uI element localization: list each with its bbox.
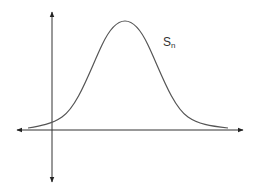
- bell-curve-diagram: [0, 0, 256, 193]
- curve-label: Sn: [163, 36, 175, 50]
- curve-label-subscript: n: [171, 41, 175, 50]
- curve-label-main: S: [163, 35, 171, 49]
- bell-curve: [28, 21, 228, 128]
